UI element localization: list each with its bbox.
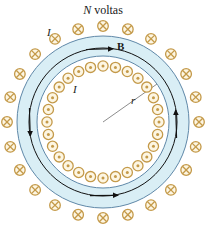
cross-symbol — [50, 34, 61, 45]
toroid-diagram-svg — [0, 0, 206, 225]
cross-symbol — [190, 142, 201, 153]
dot-symbol — [85, 171, 95, 181]
cross-symbol — [5, 142, 16, 153]
cross-symbol — [15, 165, 26, 176]
cross-symbol — [5, 92, 16, 103]
dot-symbol — [122, 167, 132, 177]
dot-symbol — [110, 171, 120, 181]
cross-symbol — [166, 49, 177, 60]
dot-symbol — [110, 62, 120, 72]
title-N: N — [83, 3, 91, 17]
cross-symbol — [190, 92, 201, 103]
dot-symbol — [133, 161, 143, 171]
title-voltas: voltas — [91, 3, 123, 17]
dot-symbol — [85, 62, 95, 72]
cross-symbol — [15, 69, 26, 80]
dot-symbol — [98, 61, 108, 71]
dot-symbol — [142, 152, 152, 162]
cross-symbol — [73, 209, 84, 220]
cross-symbol — [181, 69, 192, 80]
cross-symbol — [2, 117, 13, 128]
dot-symbol — [47, 141, 57, 151]
cross-symbol — [123, 24, 134, 35]
dot-symbol — [54, 152, 64, 162]
dot-symbol — [142, 82, 152, 92]
dot-symbol — [152, 104, 162, 114]
dot-symbol — [154, 117, 164, 127]
cross-symbol — [194, 117, 205, 128]
label-current-inner: I — [73, 84, 77, 95]
cross-symbol — [73, 24, 84, 35]
cross-symbol — [146, 34, 157, 45]
cross-symbol — [123, 209, 134, 220]
dot-symbol — [74, 167, 84, 177]
dot-symbol — [42, 117, 52, 127]
dot-symbol — [148, 93, 158, 103]
label-magnetic-field: B — [117, 41, 124, 52]
dot-symbol — [63, 73, 73, 83]
dot-symbol — [98, 173, 108, 183]
cross-symbol — [181, 165, 192, 176]
cross-symbol — [98, 21, 109, 32]
dot-symbol — [63, 161, 73, 171]
dot-symbol — [47, 93, 57, 103]
cross-symbol — [30, 185, 41, 196]
dot-symbol — [152, 129, 162, 139]
cross-symbol — [50, 200, 61, 211]
dot-symbol — [148, 141, 158, 151]
cross-symbol — [30, 49, 41, 60]
cross-symbol — [166, 185, 177, 196]
figure-title: N voltas — [0, 4, 206, 16]
dot-symbol — [43, 104, 53, 114]
dot-symbol — [54, 82, 64, 92]
label-radius: r — [131, 95, 135, 106]
dot-symbol — [74, 66, 84, 76]
dot-symbol — [43, 129, 53, 139]
cross-symbol — [146, 200, 157, 211]
dot-symbol — [122, 66, 132, 76]
label-current-outer: I — [47, 27, 51, 38]
cross-symbol — [98, 213, 109, 224]
dot-symbol — [133, 73, 143, 83]
